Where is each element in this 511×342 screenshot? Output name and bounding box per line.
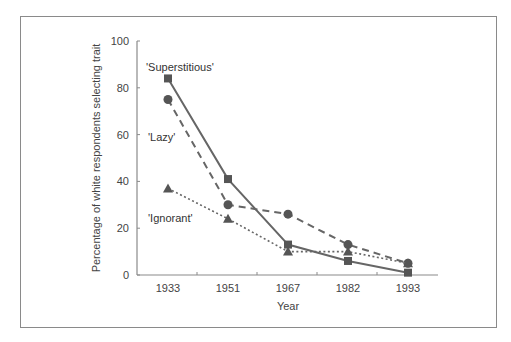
data-point-marker: [164, 95, 173, 104]
y-ticks: 020406080100: [111, 35, 140, 281]
series-label-ignorant: 'Ignorant': [148, 212, 193, 224]
data-point-marker: [224, 200, 233, 209]
series-ignorant: [163, 183, 413, 267]
line-chart: 020406080100 19331951196719821993 Year P…: [0, 0, 511, 342]
data-point-marker: [223, 214, 233, 223]
y-tick-label: 40: [117, 175, 129, 187]
data-point-marker: [404, 269, 412, 277]
x-axis-title: Year: [277, 300, 300, 312]
series-layer: [163, 74, 413, 276]
data-point-marker: [224, 175, 232, 183]
y-tick-label: 0: [123, 269, 129, 281]
y-axis-title: Percentage of white respondents selectin…: [90, 44, 102, 273]
series-superstitious: [164, 74, 412, 276]
data-point-marker: [164, 74, 172, 82]
series-label-lazy: 'Lazy': [148, 131, 175, 143]
data-point-marker: [344, 257, 352, 265]
y-tick-label: 60: [117, 129, 129, 141]
series-label-superstitious: 'Superstitious': [146, 61, 214, 73]
x-tick-label: 1967: [276, 282, 300, 294]
x-tick-label: 1951: [216, 282, 240, 294]
x-tick-label: 1982: [336, 282, 360, 294]
data-point-marker: [343, 247, 353, 256]
y-tick-label: 100: [111, 35, 129, 47]
x-tick-label: 1933: [156, 282, 180, 294]
y-tick-label: 80: [117, 82, 129, 94]
x-tick-label: 1993: [396, 282, 420, 294]
data-point-marker: [163, 183, 173, 192]
y-tick-label: 20: [117, 222, 129, 234]
data-point-marker: [284, 210, 293, 219]
